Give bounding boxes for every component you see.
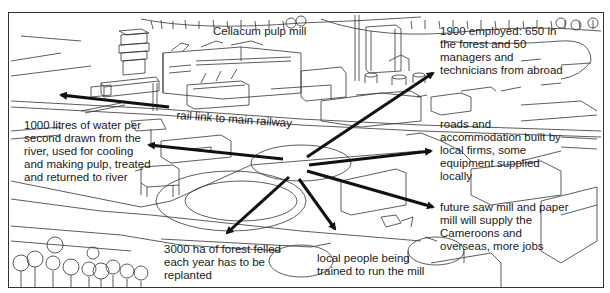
label-forest: 3000 ha of forest felled each year has t…	[164, 243, 281, 282]
label-future: future saw mill and paper mill will supp…	[440, 201, 568, 253]
chimney-icon	[355, 15, 359, 81]
arrow-future	[307, 171, 433, 207]
trees-bottom-icon	[13, 237, 148, 288]
arrow-water	[149, 145, 283, 159]
arrow-forest	[227, 177, 289, 233]
arrow-local	[299, 179, 335, 229]
diagram-title: Cellacum pulp mill	[213, 25, 306, 38]
label-local-people: local people being trained to run the mi…	[317, 252, 424, 278]
label-roads: roads and accommodation built by local f…	[440, 118, 561, 183]
tower-building-icon	[119, 29, 149, 75]
label-employed: 1900 employed: 650 in the forest and 50 …	[440, 25, 563, 77]
label-water: 1000 litres of water per second drawn fr…	[24, 119, 151, 184]
diagram-frame: Cellacum pulp mill rail link to main rai…	[8, 12, 604, 288]
main-mill-building-icon	[163, 41, 301, 109]
arrow-roads	[309, 151, 431, 165]
